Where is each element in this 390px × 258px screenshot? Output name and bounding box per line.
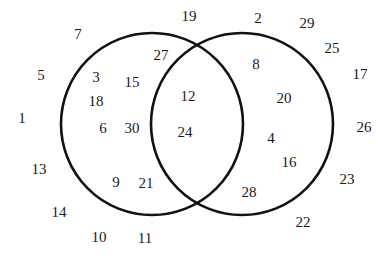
venn-number-11: 11 (138, 231, 152, 246)
venn-number-25: 25 (325, 41, 340, 56)
venn-number-9: 9 (112, 175, 120, 190)
venn-number-20: 20 (277, 91, 292, 106)
venn-number-19: 19 (182, 9, 197, 24)
venn-number-10: 10 (92, 230, 107, 245)
venn-diagram: 7192292517526113231422101127315186309211… (0, 0, 390, 258)
venn-number-14: 14 (52, 205, 67, 220)
venn-number-12: 12 (181, 89, 196, 104)
venn-number-4: 4 (267, 131, 275, 146)
venn-number-30: 30 (125, 121, 140, 136)
venn-number-29: 29 (300, 16, 315, 31)
venn-number-17: 17 (353, 67, 368, 82)
venn-number-26: 26 (357, 120, 372, 135)
venn-number-13: 13 (32, 162, 47, 177)
venn-number-6: 6 (99, 121, 107, 136)
venn-number-8: 8 (252, 57, 260, 72)
venn-number-7: 7 (74, 27, 82, 42)
venn-number-1: 1 (18, 111, 26, 126)
venn-number-16: 16 (282, 155, 297, 170)
venn-number-18: 18 (89, 94, 104, 109)
venn-number-24: 24 (178, 125, 193, 140)
venn-number-28: 28 (242, 185, 257, 200)
venn-number-21: 21 (139, 176, 154, 191)
venn-number-2: 2 (254, 11, 262, 26)
venn-number-22: 22 (296, 215, 311, 230)
venn-number-3: 3 (92, 70, 100, 85)
venn-number-5: 5 (37, 68, 45, 83)
venn-number-27: 27 (154, 48, 169, 63)
venn-number-15: 15 (125, 75, 140, 90)
venn-number-23: 23 (340, 172, 355, 187)
